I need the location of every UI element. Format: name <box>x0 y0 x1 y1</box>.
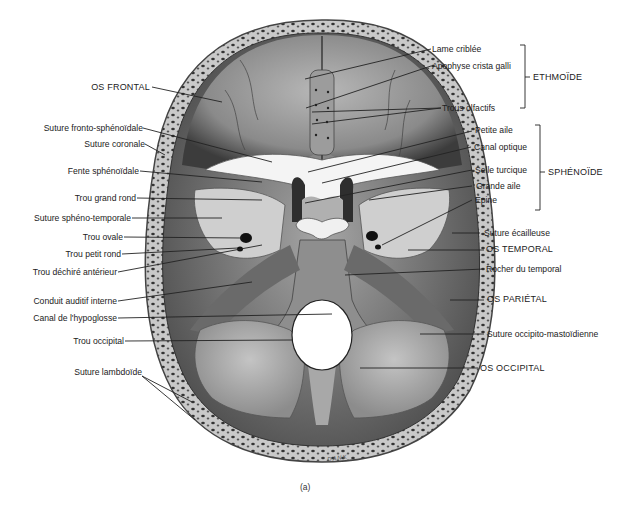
skull-base-figure: OS FRONTAL Suture fronto-sphénoïdale Sut… <box>0 0 625 505</box>
label-trou-grand-rond: Trou grand rond <box>75 193 136 203</box>
label-os-occipital: OS OCCIPITAL <box>480 363 545 373</box>
label-suture-spheno-temporale: Suture sphéno-temporale <box>34 213 131 223</box>
label-trou-petit-rond: Trou petit rond <box>65 249 121 259</box>
label-conduit-auditif-interne: Conduit auditif interne <box>33 296 117 306</box>
label-trou-occipital: Trou occipital <box>73 336 124 346</box>
label-suture-ecailleuse: Suture écailleuse <box>484 228 550 238</box>
group-label-sphenoide: SPHÉNOÏDE <box>548 167 603 177</box>
label-fente-sphenoidale: Fente sphénoïdale <box>68 166 139 176</box>
label-os-parietal: OS PARIÉTAL <box>487 294 547 304</box>
figure-caption: (a) <box>300 482 310 492</box>
label-suture-coronale: Suture coronale <box>84 139 145 149</box>
label-os-temporal: OS TEMPORAL <box>486 244 553 254</box>
label-suture-occipito-mastoidienne: Suture occipito-mastoïdienne <box>487 329 598 339</box>
label-suture-lambdoide: Suture lambdoïde <box>74 367 142 377</box>
label-canal-optique: Canal optique <box>474 142 527 152</box>
label-rocher-du-temporal: Rocher du temporal <box>486 264 561 274</box>
label-trou-dechire-anterieur: Trou déchiré antérieur <box>33 267 117 277</box>
label-epine: Épine <box>475 195 497 205</box>
label-selle-turcique: Selle turcique <box>475 165 527 175</box>
label-trous-olfactifs: Trous olfactifs <box>442 103 495 113</box>
label-canal-hypoglosse: Canal de l'hypoglosse <box>33 313 117 323</box>
label-petite-aile: Petite aile <box>475 125 513 135</box>
label-lame-criblee: Lame criblée <box>432 44 481 54</box>
label-grande-aile: Grande aile <box>476 181 520 191</box>
group-label-ethmoide: ETHMOÏDE <box>533 72 582 82</box>
label-trou-ovale: Trou ovale <box>83 232 123 242</box>
label-suture-fronto-sphenoidale: Suture fronto-sphénoïdale <box>44 123 143 133</box>
label-os-frontal: OS FRONTAL <box>91 82 150 92</box>
label-apophyse-crista-galli: Apophyse crista galli <box>432 61 511 71</box>
